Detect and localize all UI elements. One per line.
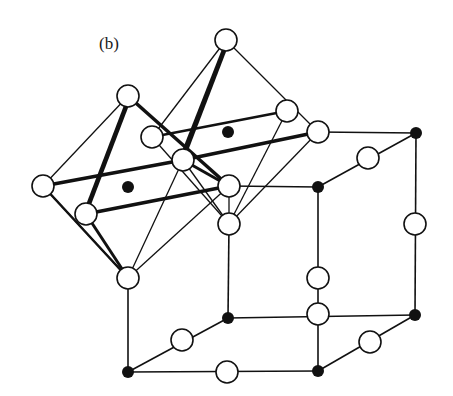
atom-filled — [222, 312, 234, 324]
atom-filled — [410, 127, 422, 139]
atom-open — [216, 361, 238, 383]
atom-filled — [312, 181, 324, 193]
atom-filled — [409, 309, 421, 321]
atom-open — [404, 213, 426, 235]
atom-open — [357, 147, 379, 169]
atom-open — [215, 29, 237, 51]
atom-open — [218, 213, 240, 235]
atom-open — [75, 203, 97, 225]
atom-open — [117, 267, 139, 289]
atom-open — [359, 331, 381, 353]
atom-filled — [312, 365, 324, 377]
atom-open — [32, 175, 54, 197]
atom-filled — [122, 181, 134, 193]
atom-filled — [122, 366, 134, 378]
atom-open — [276, 100, 298, 122]
atom-open — [117, 85, 139, 107]
atom-open — [141, 126, 163, 148]
atom-open — [171, 329, 193, 351]
atom-open — [218, 175, 240, 197]
atom-filled — [222, 126, 234, 138]
atom-open — [307, 267, 329, 289]
atom-open — [307, 303, 329, 325]
atom-open — [172, 149, 194, 171]
atom-open — [307, 121, 329, 143]
crystal-structure-diagram — [0, 0, 453, 396]
